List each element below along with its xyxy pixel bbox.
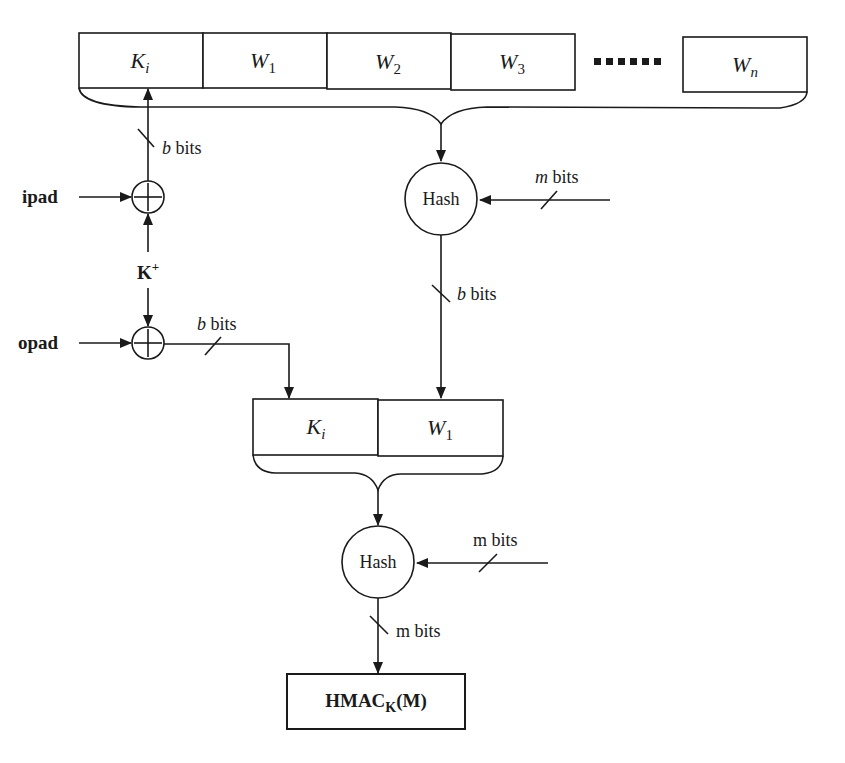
hash1-output-label: b bits <box>457 284 497 304</box>
opad-xor-to-ki-arrow <box>164 344 289 398</box>
ellipsis-dots <box>594 58 661 65</box>
top-block-row: Ki W1 W2 W3 Wn <box>79 33 807 92</box>
ipad-xor-slash <box>138 129 154 147</box>
opad-xor-output-label: b bits <box>197 314 237 334</box>
opad-label: opad <box>18 332 59 353</box>
ipad-xor-output-label: b bits <box>162 138 202 158</box>
ipad-label: ipad <box>22 186 58 207</box>
hmac-diagram: Ki W1 W2 W3 Wn Hash m bits b bits ipad b… <box>0 0 845 763</box>
bottom-brace <box>253 455 503 490</box>
top-brace <box>79 88 807 124</box>
opad-xor-slash <box>205 337 221 355</box>
hash-node-2-label: Hash <box>360 552 397 572</box>
hash2-input-label: m bits <box>473 530 518 550</box>
key-label: K+ <box>137 259 159 283</box>
hash2-output-label: m bits <box>396 621 441 641</box>
hash-node-1-label: Hash <box>423 189 460 209</box>
hash2-output-slash <box>370 616 388 634</box>
hash1-input-label: m bits <box>535 167 579 187</box>
bottom-block-row: Ki W1 <box>253 399 503 456</box>
